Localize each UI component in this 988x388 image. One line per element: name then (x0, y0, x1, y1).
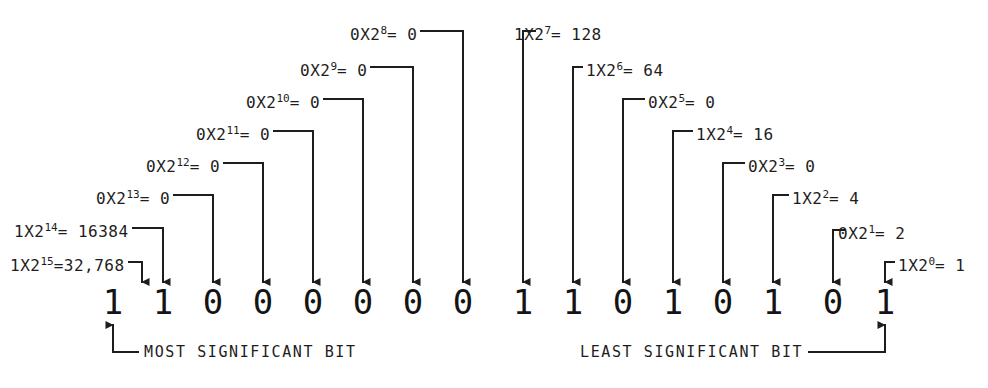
bit-digit-0: 1 (870, 285, 900, 319)
connector-to-bit-6 (573, 67, 582, 282)
coefficient-12: 0 (146, 157, 156, 176)
place-value-label-4: 1X24= 16 (696, 125, 774, 143)
result-13: = 0 (140, 189, 170, 208)
connector-to-bit-5 (623, 99, 644, 282)
coefficient-14: 1 (14, 222, 24, 241)
coefficient-15: 1 (10, 256, 20, 275)
bit-digit-7: 1 (508, 285, 538, 319)
result-14: = 16384 (58, 222, 129, 241)
multiplier-base-7: X2 (524, 25, 544, 44)
bit-digit-11: 0 (298, 285, 328, 319)
multiplier-base-10: X2 (256, 93, 276, 112)
coefficient-5: 0 (648, 93, 658, 112)
coefficient-13: 0 (96, 189, 106, 208)
place-value-label-0: 1X20= 1 (898, 256, 965, 274)
coefficient-1: 0 (838, 224, 848, 243)
place-value-label-12: 0X212= 0 (146, 157, 220, 175)
place-value-label-6: 1X26= 64 (586, 61, 664, 79)
caption-lsb: LEAST SIGNIFICANT BIT (580, 345, 803, 360)
place-value-label-2: 1X22= 4 (792, 189, 859, 207)
bit-digit-9: 0 (398, 285, 428, 319)
coefficient-4: 1 (696, 125, 706, 144)
exponent-11: 11 (226, 124, 239, 137)
connector-to-bit-10 (324, 99, 363, 282)
result-1: = 2 (875, 224, 905, 243)
result-2: = 4 (829, 189, 859, 208)
place-value-label-14: 1X214= 16384 (14, 222, 129, 240)
coefficient-6: 1 (586, 61, 596, 80)
multiplier-base-8: X2 (360, 25, 380, 44)
bit-digit-3: 0 (708, 285, 738, 319)
place-value-label-13: 0X213= 0 (96, 189, 170, 207)
bit-digit-10: 0 (348, 285, 378, 319)
multiplier-base-13: X2 (106, 189, 126, 208)
connector-to-bit-11 (274, 131, 313, 282)
connector-to-bit-0 (885, 262, 894, 282)
multiplier-base-14: X2 (24, 222, 44, 241)
result-15: =32,768 (54, 256, 125, 275)
connector-to-bit-14 (133, 228, 163, 282)
multiplier-base-0: X2 (908, 256, 928, 275)
multiplier-base-4: X2 (706, 125, 726, 144)
bit-digit-13: 0 (198, 285, 228, 319)
place-value-label-3: 0X23= 0 (748, 157, 815, 175)
place-value-label-10: 0X210= 0 (246, 93, 320, 111)
coefficient-2: 1 (792, 189, 802, 208)
exponent-12: 12 (176, 156, 189, 169)
multiplier-base-3: X2 (758, 157, 778, 176)
exponent-14: 14 (44, 221, 57, 234)
result-10: = 0 (290, 93, 320, 112)
multiplier-base-6: X2 (596, 61, 616, 80)
result-5: = 0 (685, 93, 715, 112)
caption-msb: MOST SIGNIFICANT BIT (144, 345, 357, 360)
place-value-label-15: 1X215=32,768 (10, 256, 125, 274)
exponent-15: 15 (40, 255, 53, 268)
multiplier-base-5: X2 (658, 93, 678, 112)
multiplier-base-9: X2 (310, 61, 330, 80)
place-value-label-11: 0X211= 0 (196, 125, 270, 143)
place-value-label-7: 1X27= 128 (514, 25, 602, 43)
bit-digit-6: 1 (558, 285, 588, 319)
result-0: = 1 (935, 256, 965, 275)
bit-digit-4: 1 (658, 285, 688, 319)
coefficient-11: 0 (196, 125, 206, 144)
coefficient-0: 1 (898, 256, 908, 275)
connector-to-bit-3 (723, 163, 744, 282)
multiplier-base-1: X2 (848, 224, 868, 243)
binary-place-value-diagram: 1X215=32,7681X214= 163840X213= 00X212= 0… (0, 0, 988, 388)
place-value-label-5: 0X25= 0 (648, 93, 715, 111)
bit-digit-14: 1 (148, 285, 178, 319)
coefficient-7: 1 (514, 25, 524, 44)
coefficient-3: 0 (748, 157, 758, 176)
bit-digit-5: 0 (608, 285, 638, 319)
bit-digit-1: 0 (818, 285, 848, 319)
bit-digit-8: 0 (448, 285, 478, 319)
exponent-13: 13 (126, 188, 139, 201)
connector-to-bit-13 (174, 195, 213, 282)
connector-to-bit-4 (673, 131, 692, 282)
connector-to-bit-7 (523, 31, 535, 282)
connector-to-bit-12 (224, 163, 263, 282)
coefficient-8: 0 (350, 25, 360, 44)
coefficient-9: 0 (300, 61, 310, 80)
exponent-10: 10 (276, 92, 289, 105)
connector-to-bit-15 (129, 262, 142, 282)
place-value-label-8: 0X28= 0 (350, 25, 417, 43)
result-3: = 0 (785, 157, 815, 176)
caption-connector-msb (113, 325, 138, 352)
connector-to-bit-9 (371, 67, 413, 282)
place-value-label-9: 0X29= 0 (300, 61, 367, 79)
bit-digit-12: 0 (248, 285, 278, 319)
multiplier-base-11: X2 (206, 125, 226, 144)
multiplier-base-2: X2 (802, 189, 822, 208)
result-9: = 0 (337, 61, 367, 80)
result-8: = 0 (387, 25, 417, 44)
multiplier-base-15: X2 (20, 256, 40, 275)
multiplier-base-12: X2 (156, 157, 176, 176)
coefficient-10: 0 (246, 93, 256, 112)
place-value-label-1: 0X21= 2 (838, 224, 905, 242)
result-7: = 128 (551, 25, 602, 44)
result-4: = 16 (733, 125, 774, 144)
result-12: = 0 (190, 157, 220, 176)
bit-digit-15: 1 (98, 285, 128, 319)
